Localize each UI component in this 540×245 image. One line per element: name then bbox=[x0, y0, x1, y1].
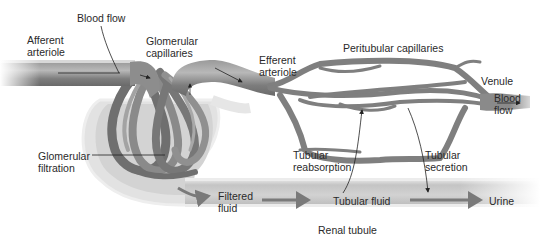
label-venule: Venule bbox=[481, 75, 513, 87]
peritubular-capillaries bbox=[270, 61, 492, 161]
label-glomerular-capillaries: Glomerular capillaries bbox=[146, 35, 198, 59]
diagram-artwork bbox=[0, 0, 540, 245]
nephron-diagram: Blood flow Afferent arteriole Glomerular… bbox=[0, 0, 540, 245]
label-peritubular-capillaries: Peritubular capillaries bbox=[343, 42, 443, 54]
label-tubular-fluid: Tubular fluid bbox=[333, 195, 390, 207]
label-renal-tubule: Renal tubule bbox=[318, 224, 377, 236]
label-afferent-arteriole: Afferent arteriole bbox=[27, 34, 65, 58]
label-glomerular-filtration: Glomerular filtration bbox=[38, 150, 90, 174]
label-blood-flow-right: Blood flow bbox=[494, 92, 521, 116]
label-blood-flow-top: Blood flow bbox=[77, 12, 125, 24]
label-urine: Urine bbox=[489, 195, 514, 207]
label-efferent-arteriole: Efferent arteriole bbox=[259, 54, 297, 78]
label-tubular-secretion: Tubular secretion bbox=[425, 149, 468, 173]
label-filtered-fluid: Filtered fluid bbox=[218, 190, 253, 214]
label-tubular-reabsorption: Tubular reabsorption bbox=[293, 149, 351, 173]
